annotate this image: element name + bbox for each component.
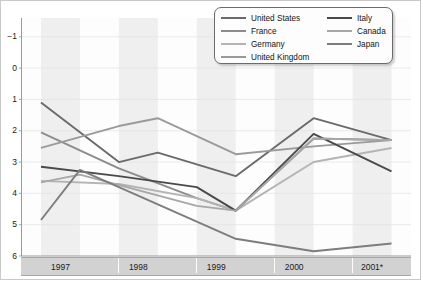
legend-label: Canada	[357, 27, 386, 36]
x-tick-label: 1997	[35, 262, 85, 272]
y-tick-label: 6	[1, 251, 17, 261]
legend-swatch-icon	[221, 56, 246, 59]
y-tick-label: 2	[1, 125, 17, 135]
y-tick-label: 4	[1, 188, 17, 198]
legend-swatch-icon	[221, 30, 246, 33]
chart-legend: United StatesFranceGermanyUnited Kingdom…	[214, 7, 393, 64]
legend-label: United Kingdom	[251, 53, 309, 62]
legend-label: Italy	[357, 14, 372, 23]
x-tick-label: 2000	[269, 262, 319, 272]
legend-entry: Canada	[327, 25, 386, 37]
legend-entry: Italy	[327, 12, 372, 24]
legend-label: United States	[251, 14, 300, 23]
legend-entry: Japan	[327, 38, 379, 50]
x-axis-separator	[352, 258, 353, 273]
legend-swatch-icon	[327, 30, 352, 33]
legend-entry: United States	[221, 12, 300, 24]
y-tick-label: 5	[1, 219, 17, 229]
legend-swatch-icon	[221, 43, 246, 46]
y-tick-label: −1	[1, 31, 17, 41]
x-tick-label: 2001*	[347, 262, 397, 272]
legend-swatch-icon	[327, 17, 352, 20]
legend-entry: United Kingdom	[221, 51, 309, 63]
legend-label: Japan	[357, 40, 379, 49]
chart-screenshot: −10123456 19971998199920002001* United S…	[0, 0, 423, 282]
y-tick-label: 1	[1, 94, 17, 104]
x-tick-label: 1999	[191, 262, 241, 272]
x-tick-label: 1998	[113, 262, 163, 272]
legend-entry: France	[221, 25, 276, 37]
x-axis-separator	[196, 258, 197, 273]
y-tick-label: 3	[1, 157, 17, 167]
x-axis-separator	[274, 258, 275, 273]
legend-entry: Germany	[221, 38, 285, 50]
legend-swatch-icon	[327, 43, 352, 46]
legend-label: France	[251, 27, 276, 36]
legend-label: Germany	[251, 40, 285, 49]
y-tick-label: 0	[1, 63, 17, 73]
x-axis-separator	[118, 258, 119, 273]
legend-swatch-icon	[221, 17, 246, 20]
